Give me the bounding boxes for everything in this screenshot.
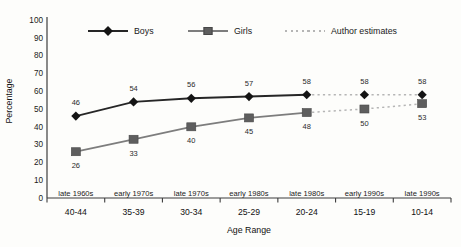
y-tick-label-60: 60 (34, 87, 44, 96)
y-tick-label-70: 70 (34, 69, 44, 78)
boys-value-label-35-39: 54 (129, 84, 137, 93)
girls-legend-label: Girls (234, 26, 252, 36)
y-tick-label-0: 0 (38, 194, 43, 203)
boys-value-label-20-24: 58 (303, 77, 311, 86)
girls-legend-line (188, 30, 228, 32)
girls-marker-15-19 (360, 105, 369, 113)
legend-item-author-estimates: Author estimates (285, 24, 397, 37)
girls-value-label-20-24: 48 (303, 122, 311, 131)
category-label-2: 30-34 (180, 207, 202, 217)
period-label-0: late 1960s (58, 189, 93, 198)
girls-line (76, 113, 307, 152)
girls-marker-30-34 (187, 123, 196, 131)
legend: Boys Girls Author estimates (0, 0, 461, 40)
period-label-4: late 1980s (289, 189, 324, 198)
period-label-6: late 1990s (405, 189, 440, 198)
y-tick-label-40: 40 (34, 123, 44, 132)
boys-marker-20-24 (302, 90, 311, 99)
boys-marker-25-29 (244, 92, 253, 101)
boys-legend-line (88, 30, 128, 32)
girls-marker-20-24 (302, 109, 311, 117)
legend-item-girls: Girls (188, 24, 252, 37)
y-tick-label-10: 10 (34, 176, 44, 185)
boys-diamond-marker-icon (103, 26, 113, 36)
boys-marker-35-39 (129, 97, 138, 106)
boys-marker-10-14 (418, 90, 427, 99)
category-label-1: 35-39 (123, 207, 145, 217)
y-tick-label-30: 30 (34, 140, 44, 149)
girls-value-label-30-34: 40 (187, 136, 195, 145)
y-tick-label-80: 80 (34, 51, 44, 60)
category-label-4: 20-24 (296, 207, 318, 217)
category-label-0: 40-44 (65, 207, 87, 217)
author-estimates-legend-line (285, 30, 325, 32)
boys-value-label-40-44: 46 (72, 98, 80, 107)
girls-value-label-10-14: 53 (418, 113, 426, 122)
girls-value-label-35-39: 33 (129, 149, 137, 158)
girls-value-label-40-44: 26 (72, 161, 80, 170)
author-estimates-legend-label: Author estimates (331, 26, 397, 36)
legend-item-boys: Boys (88, 24, 154, 37)
period-label-2: late 1970s (174, 189, 209, 198)
category-label-3: 25-29 (238, 207, 260, 217)
chart: 0102030405060708090100late 1960searly 19… (0, 0, 461, 247)
period-label-3: early 1980s (229, 189, 268, 198)
girls-marker-25-29 (245, 114, 254, 122)
y-tick-label-50: 50 (34, 105, 44, 114)
girls-value-label-25-29: 45 (245, 127, 253, 136)
girls-marker-35-39 (129, 135, 138, 143)
boys-value-label-25-29: 57 (245, 79, 253, 88)
y-axis-title: Percentage (4, 78, 14, 123)
y-tick-label-20: 20 (34, 158, 44, 167)
boys-legend-label: Boys (134, 26, 154, 36)
category-label-6: 10-14 (411, 207, 433, 217)
girls-marker-10-14 (418, 100, 427, 108)
girls-square-marker-icon (204, 27, 213, 35)
boys-value-label-30-34: 56 (187, 80, 195, 89)
period-label-5: early 1990s (345, 189, 384, 198)
x-axis-title: Age Range (227, 225, 271, 235)
category-label-5: 15-19 (353, 207, 375, 217)
boys-value-label-15-19: 58 (360, 77, 368, 86)
boys-marker-30-34 (187, 94, 196, 103)
girls-marker-40-44 (71, 148, 80, 156)
girls-value-label-15-19: 50 (360, 119, 368, 128)
boys-marker-40-44 (71, 112, 80, 121)
boys-marker-15-19 (360, 90, 369, 99)
boys-value-label-10-14: 58 (418, 77, 426, 86)
period-label-1: early 1970s (114, 189, 153, 198)
